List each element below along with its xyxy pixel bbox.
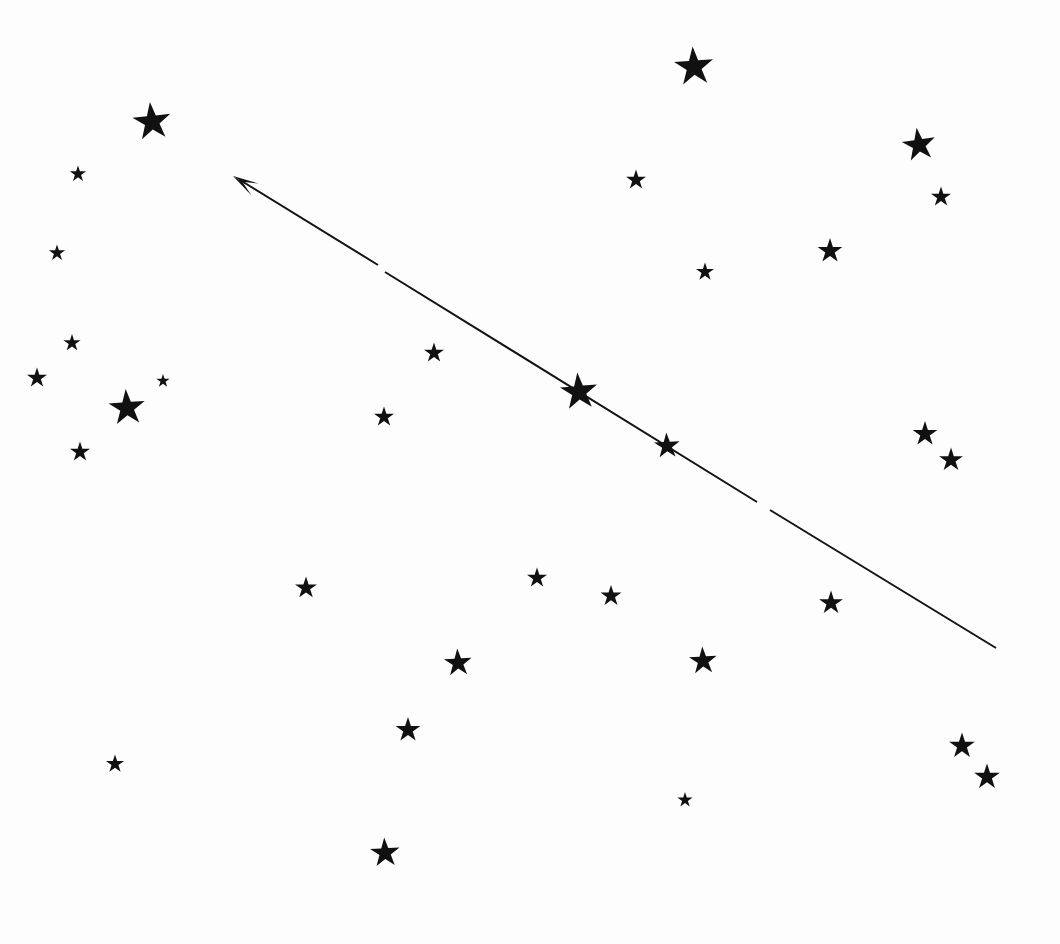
star-field-canvas — [0, 0, 1060, 944]
figure-background — [0, 0, 1060, 944]
star-field-figure — [0, 0, 1060, 944]
